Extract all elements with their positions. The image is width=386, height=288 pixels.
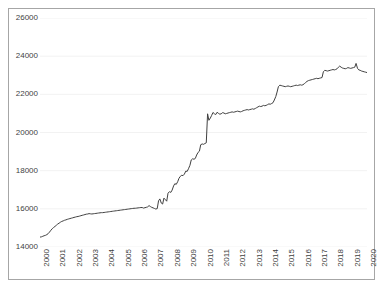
x-tick-label: 2007 [157, 249, 165, 267]
x-tick-label: 2002 [76, 249, 84, 267]
x-tick-label: 2009 [190, 249, 198, 267]
y-tick-label: 20000 [2, 129, 38, 137]
x-tick-label: 2006 [141, 249, 149, 267]
x-tick-label: 2016 [305, 249, 313, 267]
x-tick-label: 2020 [370, 249, 378, 267]
x-tick-label: 2019 [354, 249, 362, 267]
y-tick-label: 22000 [2, 90, 38, 98]
x-tick-label: 2013 [256, 249, 264, 267]
y-tick-label: 24000 [2, 52, 38, 60]
x-tick-label: 2003 [92, 249, 100, 267]
plot-area [40, 18, 367, 247]
x-tick-label: 2017 [321, 249, 329, 267]
x-tick-label: 2008 [174, 249, 182, 267]
y-tick-label: 16000 [2, 205, 38, 213]
x-tick-label: 2000 [43, 249, 51, 267]
chart-page: 14000160001800020000220002400026000 2000… [0, 0, 386, 288]
x-tick-label: 2010 [207, 249, 215, 267]
x-tick-label: 2001 [59, 249, 67, 267]
y-axis: 14000160001800020000220002400026000 [0, 18, 38, 247]
y-tick-label: 14000 [2, 243, 38, 251]
x-tick-label: 2012 [239, 249, 247, 267]
x-tick-label: 2004 [108, 249, 116, 267]
x-tick-label: 2005 [125, 249, 133, 267]
y-tick-label: 26000 [2, 14, 38, 22]
gridlines [40, 18, 367, 247]
x-tick-label: 2015 [288, 249, 296, 267]
cropped-title-remnant [0, 0, 386, 6]
x-tick-label: 2014 [272, 249, 280, 267]
x-tick-label: 2011 [223, 249, 231, 266]
x-axis: 2000200120022003200420052006200720082009… [40, 249, 367, 283]
x-tick-label: 2018 [337, 249, 345, 267]
series-line [40, 63, 367, 237]
y-tick-label: 18000 [2, 167, 38, 175]
line-chart-svg [40, 18, 367, 247]
